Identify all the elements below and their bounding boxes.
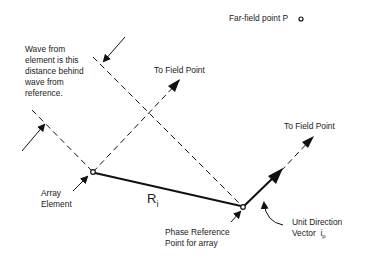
ri-main: R [147, 191, 156, 206]
phase-reference-label: Phase Reference Point for array [165, 227, 230, 249]
unit-dir-word: Vector [292, 228, 316, 238]
phase-ref-pointer-arrow [231, 212, 240, 222]
unit-vec-sub: p [322, 233, 325, 239]
unit-dir-line: Unit Direction [292, 217, 342, 228]
wave-note-line: reference. [25, 88, 84, 99]
reference-wavefront-line [93, 57, 243, 207]
wave-note-line: element is this [25, 55, 84, 66]
to-field-point-label-1: To Field Point [154, 65, 205, 76]
phase-ref-line: Phase Reference [165, 227, 230, 238]
ri-sub: i [156, 199, 158, 209]
wave-note: Wave from element is this distance behin… [25, 44, 84, 99]
bottom-distance-arrow [22, 125, 44, 151]
far-field-point-marker [299, 17, 303, 21]
unit-direction-label: Unit Direction Vector ip [292, 217, 342, 242]
element-field-arrowhead-icon [168, 79, 180, 92]
unit-direction-pointer-arrow [264, 203, 283, 225]
array-element-pointer-arrow [73, 177, 87, 191]
unit-direction-vector [243, 175, 276, 207]
ri-vector-line [95, 173, 241, 206]
to-field-point-label-2: To Field Point [284, 121, 335, 132]
element-wavefront-line [32, 110, 93, 172]
ri-label: Ri [147, 191, 158, 209]
wave-note-line: Wave from [25, 44, 84, 55]
array-element-label: Array Element [41, 188, 72, 210]
unit-dir-line-2: Vector ip [292, 228, 342, 242]
wave-note-line: distance behind [25, 66, 84, 77]
far-field-label: Far-field point P [229, 13, 288, 24]
phase-reference-point [241, 205, 246, 210]
top-distance-arrow [104, 37, 125, 61]
array-element-line: Array [41, 188, 72, 199]
element-to-field-line [93, 80, 180, 172]
array-element-line: Element [41, 199, 72, 210]
phase-ref-line: Point for array [165, 238, 230, 249]
array-element-point [91, 170, 96, 175]
wave-note-line: wave from [25, 77, 84, 88]
